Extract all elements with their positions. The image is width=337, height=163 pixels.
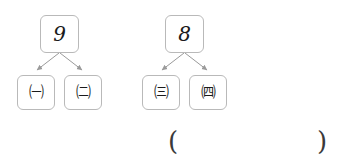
answer-close-paren: )	[317, 126, 327, 156]
bond-parent-value-left: 9	[53, 24, 66, 44]
answer-line: ( )	[0, 126, 337, 160]
bond-parent-box-right[interactable]: 8	[165, 15, 204, 53]
answer-open-paren: (	[168, 126, 178, 156]
bond-parent-value-right: 8	[178, 24, 191, 44]
bond-child-label-circled-giyeok: ㈠	[29, 85, 44, 100]
arrow-left-child	[37, 53, 59, 70]
worksheet-page: 9 ㈠ ㈡ 8 ㈢	[0, 0, 337, 163]
arrow-right-child	[60, 53, 82, 70]
arrow-right-child	[185, 53, 207, 70]
number-bond-group-right: 8 ㈢ ㈣	[125, 0, 245, 120]
bond-child-label-circled-digeut: ㈢	[154, 85, 169, 100]
bond-child-label-circled-nieun: ㈡	[76, 85, 91, 100]
number-bond-group-left: 9 ㈠ ㈡	[0, 0, 120, 120]
bond-child-box-right-2[interactable]: ㈣	[189, 75, 227, 110]
bond-child-label-circled-rieul: ㈣	[201, 85, 216, 100]
arrow-left-child	[162, 53, 184, 70]
answer-blank-field[interactable]	[180, 128, 314, 156]
bond-child-box-left-2[interactable]: ㈡	[64, 75, 102, 110]
bond-child-box-right-1[interactable]: ㈢	[142, 75, 180, 110]
bond-child-box-left-1[interactable]: ㈠	[17, 75, 55, 110]
bond-parent-box-left[interactable]: 9	[40, 15, 79, 53]
